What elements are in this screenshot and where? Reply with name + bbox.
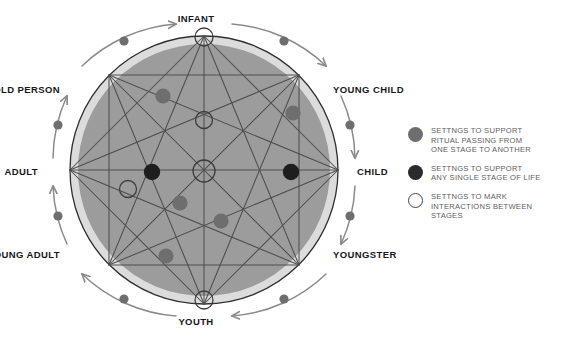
legend-line: SETTNGS TO SUPPORT xyxy=(431,126,531,136)
stage-label-young-adult: YOUNG ADULT xyxy=(0,250,60,260)
gray-node xyxy=(285,105,300,120)
legend-line: INTERACTIONS BETWEEN xyxy=(431,202,532,212)
gray-dot-icon xyxy=(408,127,423,142)
legend-line: ONE STAGE TO ANOTHER xyxy=(431,145,531,155)
transition-dot xyxy=(53,120,62,129)
transition-dot xyxy=(119,36,128,45)
black-dot-icon xyxy=(408,165,423,180)
legend-item-single-stage-text: SETTNGS TO SUPPORT ANY SINGLE STAGE OF L… xyxy=(431,164,541,183)
transition-dot xyxy=(279,36,288,45)
transition-dot xyxy=(345,120,354,129)
gray-node xyxy=(155,88,170,103)
gray-node xyxy=(213,213,228,228)
legend-item-interactions: SETTNGS TO MARK INTERACTIONS BETWEEN STA… xyxy=(408,192,568,221)
stages-of-life-diagram xyxy=(0,0,413,340)
stage-label-youngster: YOUNGSTER xyxy=(333,250,397,260)
legend-line: RITUAL PASSING FROM xyxy=(431,136,531,146)
diagram-page: INFANT YOUNG CHILD CHILD YOUNGSTER YOUTH… xyxy=(0,0,573,340)
transition-dot xyxy=(345,211,354,220)
legend: SETTNGS TO SUPPORT RITUAL PASSING FROM O… xyxy=(408,126,568,230)
hollow-circle-icon xyxy=(408,193,423,208)
transition-dot xyxy=(53,211,62,220)
gray-node xyxy=(172,195,187,210)
stage-label-youth: YOUTH xyxy=(178,317,213,327)
legend-line: STAGES xyxy=(431,211,532,221)
black-node xyxy=(144,164,160,180)
transition-dot xyxy=(119,294,128,303)
legend-line: SETTNGS TO MARK xyxy=(431,192,532,202)
legend-line: ANY SINGLE STAGE OF LIFE xyxy=(431,173,541,183)
legend-item-single-stage: SETTNGS TO SUPPORT ANY SINGLE STAGE OF L… xyxy=(408,164,568,183)
stage-label-child: CHILD xyxy=(357,167,388,177)
legend-item-ritual-passing: SETTNGS TO SUPPORT RITUAL PASSING FROM O… xyxy=(408,126,568,155)
stage-label-young-child: YOUNG CHILD xyxy=(333,85,404,95)
legend-line: SETTNGS TO SUPPORT xyxy=(431,164,541,174)
transition-dot xyxy=(279,294,288,303)
gray-node xyxy=(158,248,173,263)
legend-item-ritual-passing-text: SETTNGS TO SUPPORT RITUAL PASSING FROM O… xyxy=(431,126,531,155)
stage-label-adult: ADULT xyxy=(5,167,38,177)
stage-label-old-person: OLD PERSON xyxy=(0,85,60,95)
stage-label-infant: INFANT xyxy=(178,14,215,24)
black-node xyxy=(283,164,299,180)
legend-item-interactions-text: SETTNGS TO MARK INTERACTIONS BETWEEN STA… xyxy=(431,192,532,221)
